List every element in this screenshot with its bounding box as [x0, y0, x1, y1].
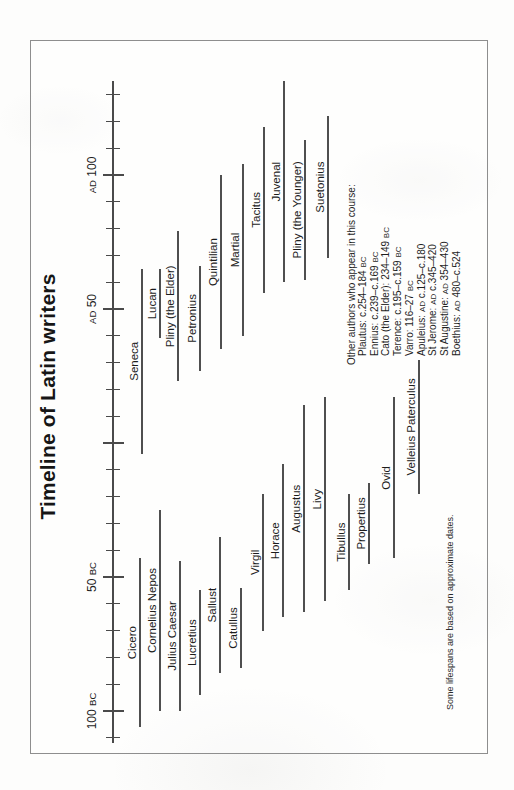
lifespan-bar	[159, 269, 161, 339]
lifespan-bar	[393, 397, 395, 558]
axis-minor-tick	[106, 737, 120, 738]
writer-label: Seneca	[128, 342, 140, 381]
axis-minor-tick	[106, 362, 120, 363]
axis-major-tick	[103, 576, 124, 578]
writer-label: Tibullus	[335, 523, 347, 562]
lifespan-bar	[141, 269, 143, 454]
writer-label: Quintilian	[207, 238, 219, 286]
other-author-entry: Plautus: c.254–184 BC	[358, 184, 370, 356]
lifespan-bar	[179, 561, 181, 711]
lifespan-bar	[368, 483, 370, 563]
lifespan-bar	[327, 116, 329, 258]
writer-label: Martial	[229, 233, 241, 268]
other-author-entry: St Augustine: AD 354–430	[440, 184, 452, 356]
lifespan-bar	[219, 537, 221, 674]
axis-minor-tick	[106, 523, 120, 524]
writer-label: Pliny (the Younger)	[291, 161, 303, 258]
chart-title: Timeline of Latin writers	[36, 41, 60, 752]
scanned-page: Timeline of Latin writers 100 BC50 BCAD …	[0, 0, 514, 790]
writer-label: Lucan	[146, 288, 158, 319]
lifespan-bar	[303, 405, 305, 611]
writer-label: Sallust	[206, 588, 218, 623]
axis-minor-tick	[106, 201, 120, 202]
lifespan-bar	[139, 558, 141, 727]
axis-minor-tick	[106, 603, 120, 604]
source-note: Some lifespans are based on approximate …	[445, 514, 455, 710]
lifespan-bar	[418, 360, 420, 494]
other-author-entry: Boethius: AD 480–c.524	[452, 184, 464, 356]
writer-label: Propertius	[355, 497, 367, 549]
axis-minor-tick	[106, 684, 120, 685]
axis-minor-tick	[106, 228, 120, 229]
other-authors-block: Other authors who appear in this course:…	[347, 184, 464, 365]
lifespan-bar	[199, 266, 201, 371]
axis-minor-tick	[106, 657, 120, 658]
writer-label: Catullus	[227, 607, 239, 649]
lifespan-bar	[282, 464, 284, 617]
axis-tick-label: 50 BC	[85, 562, 99, 592]
writer-label: Augustus	[290, 485, 302, 533]
writer-label: Petronius	[186, 294, 198, 343]
lifespan-bar	[263, 127, 265, 293]
writer-label: Lucretius	[186, 619, 198, 666]
axis-major-tick	[103, 442, 124, 444]
lifespan-bar	[177, 231, 179, 381]
lifespan-bar	[324, 397, 326, 601]
axis-tick-label: 100 BC	[85, 693, 99, 730]
other-author-entry: Varro: 116–27 BC	[405, 184, 417, 356]
axis-minor-tick	[106, 469, 120, 470]
chart-frame: Timeline of Latin writers 100 BC50 BCAD …	[30, 40, 488, 754]
lifespan-bar	[159, 510, 161, 711]
writer-label: Pliny (the Elder)	[164, 265, 176, 347]
writer-label: Tacitus	[250, 192, 262, 228]
axis-major-tick	[103, 174, 124, 176]
axis-tick-label: AD 100	[85, 157, 99, 194]
axis-minor-tick	[106, 630, 120, 631]
axis-major-tick	[103, 710, 124, 712]
timeline-chart: Timeline of Latin writers 100 BC50 BCAD …	[31, 41, 486, 752]
other-author-entry: Terence: c.195–c.159 BC	[393, 184, 405, 356]
axis-minor-tick	[106, 416, 120, 417]
axis-minor-tick	[106, 121, 120, 122]
writer-label: Cicero	[126, 626, 138, 659]
lifespan-bar	[242, 164, 244, 336]
lifespan-bar	[199, 590, 201, 695]
lifespan-bar	[304, 140, 306, 279]
axis-minor-tick	[106, 335, 120, 336]
axis-minor-tick	[106, 148, 120, 149]
axis-minor-tick	[106, 282, 120, 283]
axis-minor-tick	[106, 550, 120, 551]
lifespan-bar	[348, 494, 350, 590]
writer-label: Livy	[311, 489, 323, 509]
writer-label: Juvenal	[270, 162, 282, 202]
axis-minor-tick	[106, 255, 120, 256]
axis-minor-tick	[106, 389, 120, 390]
axis-line	[112, 81, 114, 743]
lifespan-bar	[283, 81, 285, 282]
lifespan-bar	[262, 494, 264, 631]
writer-label: Horace	[269, 522, 281, 559]
axis-tick-label: AD 50	[85, 294, 99, 324]
lifespan-bar	[240, 588, 242, 668]
other-authors-list: Plautus: c.254–184 BCEnnius: c.239–c.169…	[358, 184, 464, 365]
writer-label: Cornelius Nepos	[146, 568, 158, 653]
axis-minor-tick	[106, 94, 120, 95]
writer-label: Suetonius	[314, 161, 326, 212]
writer-label: Julius Caesar	[166, 601, 178, 671]
writer-label: Velleius Paterculus	[405, 378, 417, 475]
lifespan-bar	[220, 175, 222, 349]
writer-label: Virgil	[249, 550, 261, 575]
axis-major-tick	[103, 308, 124, 310]
axis-minor-tick	[106, 496, 120, 497]
writer-label: Ovid	[380, 466, 392, 490]
